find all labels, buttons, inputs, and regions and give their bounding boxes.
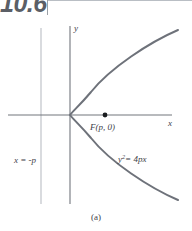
equation-label: y2= 4px — [117, 153, 146, 164]
focus-label: F(p, 0) — [89, 122, 115, 132]
focus-point-dot — [103, 113, 108, 118]
equation-rest: = 4px — [125, 154, 146, 164]
figure-caption: (a) — [0, 212, 192, 222]
parabola-diagram: y x F(p, 0) x = -p y2= 4px — [0, 16, 192, 231]
section-number: 10.6 — [0, 0, 47, 16]
x-axis-label: x — [167, 118, 172, 128]
y-axis-label: y — [73, 23, 78, 33]
parabola-figure: y x F(p, 0) x = -p y2= 4px (a) — [0, 16, 192, 231]
header-horizontal-rule — [47, 0, 192, 1]
header-vertical-rule — [47, 0, 48, 15]
directrix-label: x = -p — [13, 155, 37, 165]
figure-page: 10.6 y x F(p, 0) x = -p y2= 4p — [0, 0, 192, 231]
